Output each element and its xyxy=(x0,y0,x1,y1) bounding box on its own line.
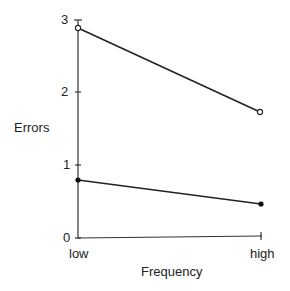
open-point-low xyxy=(75,25,80,30)
x-axis xyxy=(78,236,262,238)
filled-point-high xyxy=(258,201,263,206)
ytick-3: 3 xyxy=(61,12,68,27)
series-filled-line xyxy=(78,180,261,204)
ytick-2: 2 xyxy=(61,84,68,99)
filled-point-low xyxy=(75,177,80,182)
xtick-high: high xyxy=(250,246,275,261)
line-chart xyxy=(0,0,290,291)
ytick-0: 0 xyxy=(63,230,70,245)
ytick-1: 1 xyxy=(63,157,70,172)
open-point-high xyxy=(257,109,262,114)
x-axis-label: Frequency xyxy=(141,264,202,279)
series-open-line xyxy=(78,28,260,112)
y-axis-label: Errors xyxy=(14,120,49,135)
xtick-low: low xyxy=(69,246,89,261)
